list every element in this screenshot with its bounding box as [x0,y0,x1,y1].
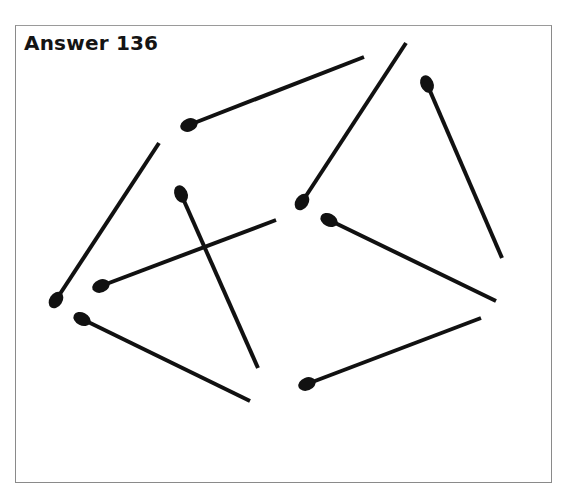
matchsticks-group [46,43,502,401]
matchstick-head [417,73,436,95]
matchstick [292,43,406,213]
matchstick [318,210,496,301]
matchstick [71,309,250,401]
matchstick-head [90,277,111,296]
matchstick-stick [101,220,276,286]
matchstick-head [171,183,190,205]
matchstick-stick [302,43,406,202]
matchstick-stick [427,84,502,258]
matchstick [178,57,364,134]
matchstick [171,183,258,368]
matchstick-stick [82,319,250,401]
matchstick-stick [329,220,496,301]
matchstick-head [71,309,93,329]
matchstick [296,318,481,393]
matchstick-stick [181,194,258,368]
matchstick-diagram [0,0,567,500]
matchstick-stick [307,318,481,384]
matchstick-stick [56,143,159,300]
matchstick [90,220,276,295]
matchstick-head [178,116,199,135]
matchstick-head [296,375,317,394]
matchstick-head [318,210,340,230]
matchstick [417,73,502,258]
matchstick-stick [189,57,364,125]
